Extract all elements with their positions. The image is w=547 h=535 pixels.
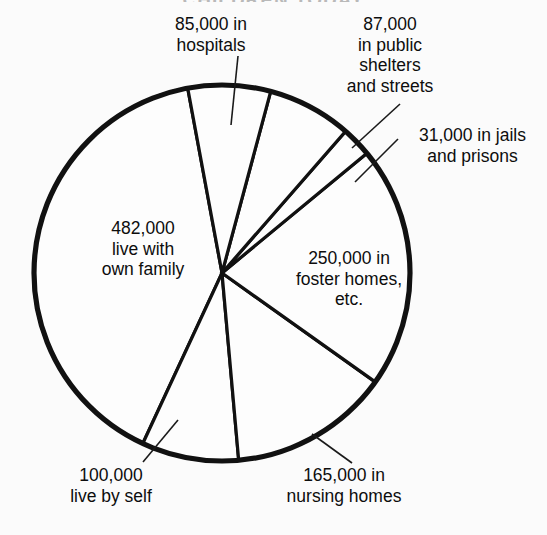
label-jails-prisons: 31,000 in jails and prisons [400,125,545,166]
label-foster-homes: 250,000 in foster homes, etc. [282,248,416,310]
label-nursing-homes: 165,000 in nursing homes [258,465,430,506]
leader-line-nursing-homes [312,434,352,463]
label-hospitals: 85,000 in hospitals [152,14,270,55]
label-live-by-self: 100,000 live by self [36,465,186,506]
label-own-family: 482,000 live with own family [78,218,208,280]
chart-page: CHILDREN TODAY [0,0,547,535]
label-public-shelters: 87,000 in public shelters and streets [330,14,450,96]
leader-line-shelters [352,104,400,148]
